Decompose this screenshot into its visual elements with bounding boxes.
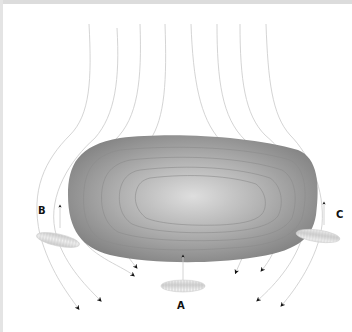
central-body-shape xyxy=(68,135,318,262)
label-a: A xyxy=(177,300,185,311)
label-c: C xyxy=(336,209,343,220)
central-body xyxy=(68,135,318,285)
diagram-frame: B C A xyxy=(0,0,352,332)
organelle-c xyxy=(295,227,340,245)
organelle-b xyxy=(35,230,81,251)
label-b: B xyxy=(38,205,46,216)
diagram-canvas: B C A xyxy=(0,0,352,332)
organelle-a xyxy=(161,280,205,292)
